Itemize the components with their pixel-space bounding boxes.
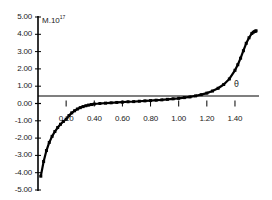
data-point-marker (177, 97, 180, 100)
data-point-marker (222, 83, 225, 86)
data-point-marker (245, 42, 248, 45)
x-tick-label: 0.40 (79, 114, 109, 123)
data-point-marker (132, 100, 135, 103)
data-point-marker (56, 126, 59, 129)
data-series-group (39, 29, 257, 177)
x-tick-label: 0.80 (136, 114, 166, 123)
data-point-marker (104, 102, 107, 105)
data-point-marker (79, 106, 82, 109)
data-point-marker (53, 130, 56, 133)
data-point-marker (51, 135, 54, 138)
y-tick-label: 5.00 (6, 12, 32, 21)
data-point-marker (82, 105, 85, 108)
data-point-marker (149, 99, 152, 102)
data-point-marker (242, 49, 245, 52)
data-point-marker (76, 108, 79, 111)
data-point-marker (248, 36, 251, 39)
y-tick-label: -3.00 (6, 150, 32, 159)
x-tick-label: 1.40 (220, 114, 250, 123)
y-tick-label: -5.00 (6, 185, 32, 194)
data-point-marker (138, 100, 141, 103)
data-point-marker (45, 149, 48, 152)
data-point-marker (39, 175, 42, 178)
data-point-marker (233, 69, 236, 72)
data-point-marker (211, 90, 214, 93)
data-point-marker (84, 104, 87, 107)
y-tick-label: 3.00 (6, 47, 32, 56)
data-point-marker (155, 99, 158, 102)
data-point-marker (73, 109, 76, 112)
y-tick-label: 2.00 (6, 64, 32, 73)
y-tick-label: 1.00 (6, 81, 32, 90)
data-point-marker (188, 95, 191, 98)
chart-figure: M.1017 θ 5.004.003.002.001.000.00-1.00-2… (0, 0, 272, 200)
data-point-marker (217, 87, 220, 90)
data-point-marker (255, 29, 258, 32)
y-tick-label: -2.00 (6, 133, 32, 142)
data-point-marker (194, 94, 197, 97)
y-axis-label-exponent: 17 (60, 14, 66, 20)
x-axis-label: θ (234, 80, 239, 89)
data-point-marker (115, 101, 118, 104)
data-point-marker (172, 97, 175, 100)
axes-group (38, 16, 259, 191)
y-tick-label: 4.00 (6, 29, 32, 38)
data-point-marker (121, 101, 124, 104)
data-point-marker (239, 57, 242, 60)
y-tick-label: -4.00 (6, 168, 32, 177)
data-point-marker (98, 102, 101, 105)
y-axis-label-text: M.10 (42, 16, 60, 25)
data-point-marker (127, 100, 130, 103)
x-tick-label: 0.60 (107, 114, 137, 123)
data-point-marker (42, 160, 45, 163)
data-point-marker (48, 141, 51, 144)
data-point-marker (166, 98, 169, 101)
y-axis-label: M.1017 (42, 16, 65, 25)
x-tick-label: 1.00 (164, 114, 194, 123)
y-tick-label: -1.00 (6, 116, 32, 125)
data-point-marker (183, 96, 186, 99)
data-point-marker (87, 104, 90, 107)
x-tick-label: 0.20 (51, 114, 81, 123)
data-point-marker (160, 98, 163, 101)
data-point-marker (236, 63, 239, 66)
y-tick-label: 0.00 (6, 99, 32, 108)
chart-plot-area (0, 0, 272, 200)
data-point-marker (205, 92, 208, 95)
data-point-marker (110, 101, 113, 104)
series-line (41, 31, 256, 176)
data-point-marker (228, 77, 231, 80)
data-point-marker (90, 103, 93, 106)
x-tick-label: 1.20 (192, 114, 222, 123)
data-point-marker (143, 99, 146, 102)
data-point-marker (200, 93, 203, 96)
data-point-marker (93, 103, 96, 106)
data-point-marker (59, 123, 62, 126)
